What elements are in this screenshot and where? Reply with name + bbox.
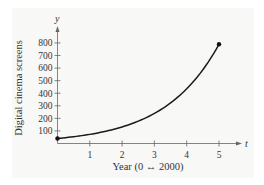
- y-tick-label: 300: [38, 101, 53, 111]
- y-tick-label: 100: [38, 126, 53, 136]
- chart: y t 100200300400500600700800 12345 Year …: [0, 0, 264, 185]
- y-tick-label: 500: [38, 76, 53, 86]
- end-point: [217, 42, 221, 46]
- y-axis-arrow-icon: [56, 26, 60, 32]
- x-axis-variable: t: [245, 138, 248, 149]
- y-tick-label: 200: [38, 114, 53, 124]
- y-tick-label: 800: [38, 38, 53, 48]
- y-tick-label: 400: [38, 89, 53, 99]
- x-tick-label: 4: [184, 150, 189, 160]
- x-tick-label: 2: [120, 150, 125, 160]
- x-tick-label: 5: [217, 150, 222, 160]
- x-axis-arrow-icon: [236, 142, 242, 146]
- start-point: [55, 136, 59, 140]
- y-axis-variable: y: [54, 13, 60, 24]
- x-axis-title: Year (0 ↔ 2000): [113, 161, 184, 173]
- y-tick-label: 600: [38, 63, 53, 73]
- y-tick-label: 700: [38, 51, 53, 61]
- x-tick-label: 3: [152, 150, 157, 160]
- data-curve: [58, 44, 220, 138]
- x-tick-label: 1: [87, 150, 92, 160]
- y-axis-title: Digital cinema screens: [13, 40, 24, 136]
